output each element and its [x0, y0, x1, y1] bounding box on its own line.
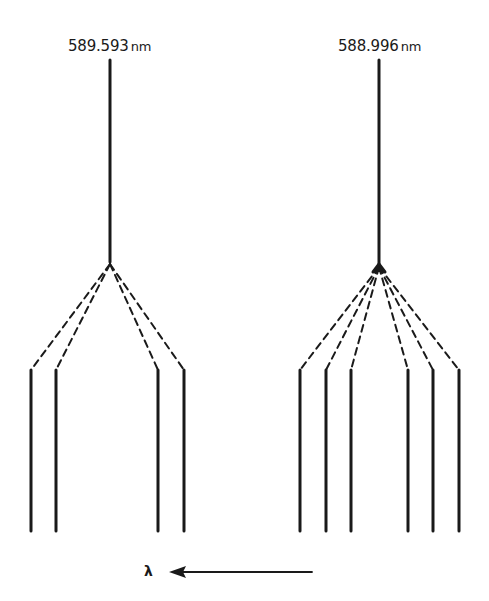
- wavelength-value: 588.996: [338, 37, 399, 55]
- split-connectors-d1: [31, 264, 184, 370]
- wavelength-unit: nm: [401, 39, 422, 54]
- wavelength-label-d1: 589.593nm: [68, 37, 151, 55]
- split-components-d1: [31, 370, 184, 531]
- wavelength-value: 589.593: [68, 37, 129, 55]
- split-connectors-d2: [300, 267, 459, 370]
- wavelength-label-d2: 588.996nm: [338, 37, 421, 55]
- wavelength-unit: nm: [131, 39, 152, 54]
- split-components-d2: [300, 370, 459, 531]
- lambda-symbol: λ: [144, 563, 153, 579]
- zeeman-splitting-diagram: [0, 0, 489, 601]
